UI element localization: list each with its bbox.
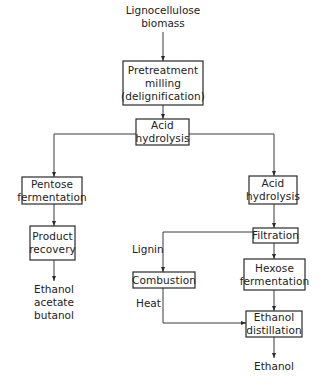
process-flowchart: Lignocellulose biomass Pretreatment mill…	[0, 0, 329, 388]
output-final-ethanol: Ethanol	[244, 360, 304, 373]
node-hexose-fermentation: Hexose fermentation	[244, 259, 305, 290]
node-ethanol-distillation: Ethanol distillation	[246, 311, 302, 337]
edge-label-lignin: Lignin	[132, 243, 164, 256]
node-combustion: Combustion	[133, 272, 195, 288]
node-filtration: Filtration	[253, 228, 298, 243]
node-product-recovery: Product recovery	[30, 226, 75, 260]
edge-label-heat: Heat	[136, 297, 161, 310]
node-pentose-fermentation: Pentose fermentation	[22, 177, 82, 204]
output-pentose-products: Ethanol acetate butanol	[14, 283, 94, 322]
node-pretreatment: Pretreatment milling (delignification)	[123, 61, 203, 105]
node-acid-hydrolysis-1: Acid hydrolysis	[136, 119, 189, 145]
node-acid-hydrolysis-2: Acid hydrolysis	[249, 176, 297, 204]
input-biomass-label: Lignocellulose biomass	[113, 4, 213, 30]
